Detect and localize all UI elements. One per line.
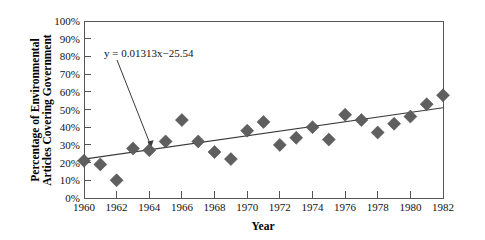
data-point <box>208 145 221 158</box>
x-tick-label: 1976 <box>334 201 357 213</box>
y-axis-title-line2: Articles Covering Government <box>41 34 54 186</box>
data-point <box>159 135 172 148</box>
y-tick-label: 100% <box>54 15 80 27</box>
data-point <box>273 138 286 151</box>
x-axis-title: Year <box>252 220 275 232</box>
annotation-leader-line <box>117 60 151 145</box>
x-axis-tick-labels: 1960 1962 1964 1966 1968 1970 1972 1974 … <box>73 201 454 213</box>
y-tick-label: 10% <box>60 174 80 186</box>
data-point <box>388 117 401 130</box>
y-tick-label: 20% <box>60 157 80 169</box>
data-point <box>371 126 384 139</box>
data-point <box>436 89 449 102</box>
data-point <box>420 98 433 111</box>
y-tick-label: 40% <box>60 121 80 133</box>
data-series-markers <box>77 89 449 187</box>
y-tick-label: 80% <box>60 50 80 62</box>
x-tick-label: 1972 <box>269 201 291 213</box>
y-tick-label: 50% <box>60 104 80 116</box>
data-point <box>192 135 205 148</box>
x-tick-label: 1962 <box>106 201 128 213</box>
x-tick-label: 1964 <box>138 201 161 213</box>
y-axis-title: Percentage of Environmental Articles Cov… <box>29 34 54 186</box>
x-tick-label: 1968 <box>204 201 227 213</box>
y-axis-ticks <box>84 21 91 198</box>
x-tick-label: 1982 <box>432 201 454 213</box>
data-point <box>355 114 368 127</box>
data-point <box>143 144 156 157</box>
trendline-equation-label: y = 0.01313x−25.54 <box>104 47 194 59</box>
scatter-plot: 0% 10% 20% 30% 40% 50% 60% 70% 80% 90% 1… <box>0 0 485 240</box>
y-tick-label: 30% <box>60 139 80 151</box>
y-tick-label: 60% <box>60 86 80 98</box>
y-axis-tick-labels: 0% 10% 20% 30% 40% 50% 60% 70% 80% 90% 1… <box>54 15 80 204</box>
data-point <box>322 133 335 146</box>
x-tick-label: 1974 <box>302 201 325 213</box>
data-point <box>224 153 237 166</box>
data-point <box>94 158 107 171</box>
data-point <box>257 115 270 128</box>
x-axis-ticks <box>84 191 443 198</box>
x-tick-label: 1966 <box>171 201 194 213</box>
data-point <box>110 174 123 187</box>
x-tick-label: 1978 <box>367 201 390 213</box>
data-point <box>339 108 352 121</box>
data-point <box>306 121 319 134</box>
data-point <box>175 114 188 127</box>
chart-figure: 0% 10% 20% 30% 40% 50% 60% 70% 80% 90% 1… <box>0 0 485 240</box>
y-tick-label: 70% <box>60 68 80 80</box>
y-tick-label: 90% <box>60 33 80 45</box>
x-tick-label: 1970 <box>236 201 259 213</box>
x-tick-label: 1980 <box>399 201 422 213</box>
data-point <box>290 131 303 144</box>
x-tick-label: 1960 <box>73 201 96 213</box>
